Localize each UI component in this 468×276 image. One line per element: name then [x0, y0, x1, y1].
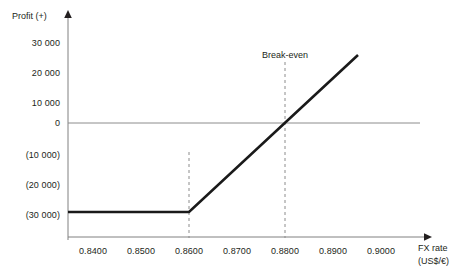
y-axis-arrow-icon [64, 10, 72, 18]
y-tick-label-neg20000: (20 000) [0, 180, 60, 190]
x-axis-title-line1: FX rate [418, 243, 448, 253]
y-tick-label-neg10000: (10 000) [0, 150, 60, 160]
y-tick-label-10000: 10 000 [0, 98, 60, 108]
y-tick-label-0: 0 [0, 118, 60, 128]
y-tick-label-neg30000: (30 000) [0, 210, 60, 220]
break-even-annotation-label: Break-even [235, 50, 335, 60]
profit-payoff-line [68, 55, 358, 212]
chart-canvas [0, 0, 468, 276]
chart-figure: Profit (+) 30 000 20 000 10 000 0 (10 00… [0, 0, 468, 276]
y-tick-label-30000: 30 000 [0, 38, 60, 48]
y-tick-label-20000: 20 000 [0, 68, 60, 78]
y-axis-title: Profit (+) [12, 11, 47, 21]
x-axis-title-line2: (US$/€) [418, 256, 449, 266]
x-tick-label-09000: 0.9000 [351, 246, 411, 256]
x-axis-arrow-icon [424, 233, 432, 241]
